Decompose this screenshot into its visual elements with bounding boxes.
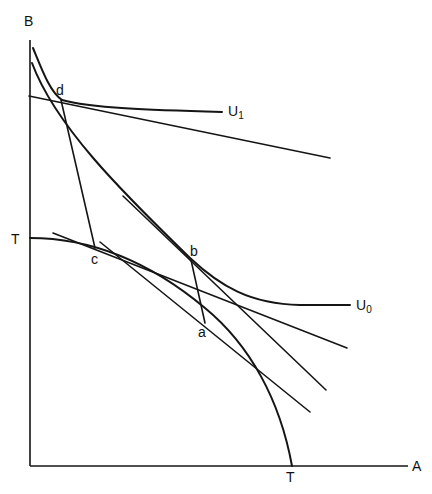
u1-label: U1 [228,103,244,121]
ppf-y-intercept-label: T [11,231,20,247]
price-line-b [123,196,326,390]
diagram-canvas: B A T T U1 U0 d c b a [0,0,432,494]
point-c-label: c [91,251,98,267]
trade-diagram-svg: B A T T U1 U0 d c b a [0,0,432,494]
trade-line-dc [61,100,95,248]
y-axis-label: B [24,13,33,29]
ppf-x-intercept-label: T [286,469,295,485]
u0-label: U0 [356,297,372,315]
point-a-label: a [198,324,206,340]
point-d-label: d [56,82,64,98]
price-line-d [29,96,330,158]
x-axis-label: A [412,458,422,474]
point-b-label: b [190,243,198,259]
ppf-curve [30,238,292,466]
